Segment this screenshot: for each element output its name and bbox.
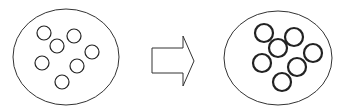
before-state [13, 9, 119, 105]
after-particle-circle [253, 54, 271, 72]
before-particle-circle [67, 29, 81, 43]
right-arrow-icon [152, 36, 194, 86]
after-particle-circle [288, 58, 306, 76]
after-particle-circle [255, 24, 273, 42]
transform-arrow [152, 36, 194, 86]
after-particles [253, 24, 322, 91]
before-particle-circle [55, 75, 69, 89]
diagram-canvas [0, 0, 346, 111]
after-particle-circle [269, 39, 287, 57]
before-particle-circle [70, 59, 84, 73]
after-particle-circle [285, 28, 303, 46]
before-particle-circle [37, 26, 51, 40]
after-particle-circle [273, 73, 291, 91]
before-particle-circle [35, 56, 49, 70]
before-particles [35, 26, 99, 89]
after-particle-circle [304, 44, 322, 62]
before-container-ellipse [13, 9, 119, 105]
before-particle-circle [85, 45, 99, 59]
after-state [224, 11, 332, 105]
before-particle-circle [50, 39, 64, 53]
